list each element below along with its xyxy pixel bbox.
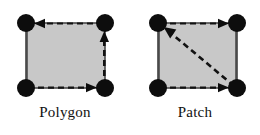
polygon-vertex-top-right [96, 14, 114, 32]
figure-panel-polygon: Polygon [0, 0, 130, 135]
patch-diagram [130, 0, 260, 103]
patch-vertex-bottom-right [228, 79, 246, 97]
patch-vertex-top-right [228, 14, 246, 32]
figure-root: Polygon Patch [0, 0, 260, 135]
polygon-square-fill [26, 23, 105, 88]
polygon-diagram [0, 0, 130, 103]
figure-panel-patch: Patch [130, 0, 260, 135]
polygon-vertex-bottom-left [17, 79, 35, 97]
polygon-vertex-bottom-right [96, 79, 114, 97]
patch-caption: Patch [130, 103, 260, 121]
polygon-vertex-top-left [17, 14, 35, 32]
polygon-caption: Polygon [0, 103, 130, 121]
patch-vertex-bottom-left [149, 79, 167, 97]
patch-vertex-top-left [149, 14, 167, 32]
